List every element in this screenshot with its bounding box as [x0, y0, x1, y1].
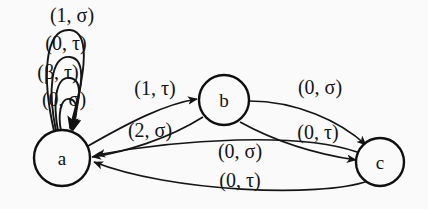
node-c[interactable]: c: [356, 138, 404, 186]
edge-label-a-to-b: (1, τ): [134, 77, 175, 100]
node-b-label: b: [219, 90, 229, 111]
edge-label-b-to-c-tau: (0, τ): [297, 121, 338, 144]
self-loop-label-3: (β, τ): [37, 61, 79, 84]
self-loop-label-2: (0, τ): [45, 32, 86, 55]
node-a[interactable]: a: [34, 130, 90, 186]
edge-label-b-to-a: (2, σ): [128, 119, 172, 142]
node-c-label: c: [376, 152, 384, 173]
node-a-label: a: [58, 148, 67, 169]
self-loop-label-4: (0, σ): [42, 88, 86, 111]
state-diagram-svg: a b c (1, σ) (0, τ) (β, τ) (0, σ) (1, τ)…: [0, 0, 428, 209]
diagram-canvas: a b c (1, σ) (0, τ) (β, τ) (0, σ) (1, τ)…: [0, 0, 428, 209]
self-loop-label-1: (1, σ): [50, 4, 94, 27]
edge-label-c-to-a-sigma: (0, σ): [218, 140, 262, 163]
edge-label-c-to-a-tau: (0, τ): [219, 169, 260, 192]
node-b[interactable]: b: [199, 75, 249, 125]
edge-label-b-to-c-sigma: (0, σ): [298, 76, 342, 99]
